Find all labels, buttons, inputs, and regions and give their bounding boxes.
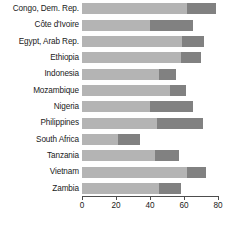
x-axis-tick-label: 60 [179,201,188,210]
x-axis-tick-label: 40 [145,201,154,210]
category-label: Indonesia [44,66,79,82]
bar-track [82,52,201,63]
category-label: Egypt, Arab Rep. [19,34,79,50]
bar-row: Indonesia [0,66,233,82]
category-label: Vietnam [50,164,79,180]
bar-track [82,85,186,96]
bar-segment-b [187,3,216,14]
bar-segment-a [82,36,182,47]
bar-segment-a [82,183,159,194]
bar-segment-a [82,69,159,80]
category-label: Zambia [52,181,79,197]
x-axis-tick-label: 80 [213,201,222,210]
bar-track [82,101,193,112]
x-axis-tick-label: 0 [80,201,85,210]
bar-track [82,134,140,145]
bar-segment-b [182,36,204,47]
category-label: Côte d'Ivoire [35,17,79,33]
category-label: Ethiopia [50,50,79,66]
bar-segment-a [82,101,150,112]
bar-segment-a [82,150,155,161]
bar-segment-b [150,20,193,31]
bar-track [82,69,176,80]
bar-row: Egypt, Arab Rep. [0,34,233,50]
bar-row: Tanzania [0,148,233,164]
category-label: South Africa [36,132,79,148]
bar-segment-a [82,3,187,14]
category-label: Tanzania [47,148,79,164]
category-label: Philippines [41,115,80,131]
bar-segment-a [82,20,150,31]
x-axis-tick [150,196,151,200]
bar-row: Zambia [0,181,233,197]
bar-row: Nigeria [0,99,233,115]
bar-track [82,3,216,14]
x-axis-tick [116,196,117,200]
bar-segment-b [157,118,203,129]
x-axis-tick-label: 20 [111,201,120,210]
bar-row: Philippines [0,115,233,131]
bar-segment-b [118,134,140,145]
x-axis-tick [218,196,219,200]
bar-segment-b [187,167,206,178]
bar-row: Mozambique [0,83,233,99]
category-label: Congo, Dem. Rep. [13,1,79,17]
bar-track [82,20,193,31]
bar-track [82,150,179,161]
bar-segment-b [150,101,193,112]
bar-row: Vietnam [0,164,233,180]
x-axis: 020406080 [0,196,233,225]
bar-segment-a [82,134,118,145]
x-axis-tick [184,196,185,200]
bar-segment-b [159,183,181,194]
stacked-bar-chart: Congo, Dem. Rep.Côte d'IvoireEgypt, Arab… [0,0,233,225]
x-axis-tick [82,196,83,200]
category-label: Nigeria [54,99,79,115]
bar-track [82,183,181,194]
bar-segment-a [82,118,157,129]
bar-segment-a [82,52,181,63]
bar-row: Ethiopia [0,50,233,66]
bar-segment-b [155,150,179,161]
category-label: Mozambique [33,83,79,99]
bar-segment-b [159,69,176,80]
bar-row: Côte d'Ivoire [0,17,233,33]
bar-track [82,167,206,178]
bar-row: Congo, Dem. Rep. [0,1,233,17]
bar-segment-b [170,85,185,96]
bar-segment-a [82,85,170,96]
bar-segment-a [82,167,187,178]
bar-row: South Africa [0,132,233,148]
bar-track [82,118,203,129]
plot-area: Congo, Dem. Rep.Côte d'IvoireEgypt, Arab… [0,0,233,196]
bar-track [82,36,204,47]
bar-segment-b [181,52,201,63]
